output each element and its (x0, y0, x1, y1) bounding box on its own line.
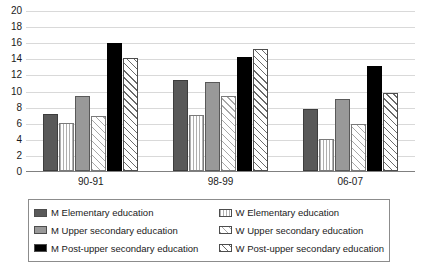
y-axis-tick-label: 6 (0, 119, 22, 129)
legend-swatch-icon (219, 226, 232, 234)
legend-item: M Post-upper secondary education (34, 243, 219, 254)
y-axis-tick-label: 4 (0, 135, 22, 145)
bar (335, 99, 350, 171)
y-axis-tick-label: 20 (0, 6, 22, 16)
x-axis-tick-label: 90-91 (26, 176, 156, 187)
legend-swatch-icon (34, 209, 47, 217)
legend-item-label: W Post-upper secondary education (236, 243, 384, 254)
y-axis-tick-label: 16 (0, 38, 22, 48)
legend-item-label: M Upper secondary education (51, 225, 178, 236)
bar (107, 43, 122, 171)
legend-swatch-icon (34, 226, 47, 234)
legend-swatch-icon (219, 244, 232, 252)
grouped-bar-chart: 02468101214161820 90-9198-9906-07 (0, 0, 421, 196)
legend-item: M Elementary education (34, 207, 219, 218)
y-axis-tick-label: 14 (0, 54, 22, 64)
bar (319, 139, 334, 171)
bar-group (285, 11, 415, 171)
legend-item: W Post-upper secondary education (219, 243, 384, 254)
bar-group (26, 11, 156, 171)
x-axis-tick-label: 98-99 (156, 176, 286, 187)
y-axis-tick-label: 0 (0, 167, 22, 177)
bar (383, 93, 398, 171)
legend-item: M Upper secondary education (34, 225, 219, 236)
legend-item: W Elementary education (219, 207, 384, 218)
legend-column-men: M Elementary educationM Upper secondary … (34, 204, 219, 257)
x-axis-line (26, 171, 415, 172)
legend-column-women: W Elementary educationW Upper secondary … (219, 204, 384, 257)
legend-swatch-icon (34, 244, 47, 252)
legend-item-label: M Elementary education (51, 207, 153, 218)
bar (91, 116, 106, 171)
x-axis-tick-labels: 90-9198-9906-07 (26, 176, 415, 187)
y-axis-tick-label: 18 (0, 22, 22, 32)
bar (221, 96, 236, 171)
bars-layer (26, 11, 415, 171)
legend-item-label: M Post-upper secondary education (51, 243, 198, 254)
y-axis-tick-label: 2 (0, 151, 22, 161)
bar (43, 114, 58, 171)
legend-item-label: W Elementary education (236, 207, 340, 218)
bar (303, 109, 318, 171)
bar (189, 115, 204, 171)
bar-group (156, 11, 286, 171)
x-axis-tick-label: 06-07 (285, 176, 415, 187)
bar (351, 124, 366, 171)
bar (59, 123, 74, 171)
y-axis-tick-label: 12 (0, 70, 22, 80)
y-axis: 02468101214161820 (0, 0, 22, 196)
bar (173, 80, 188, 171)
bar (75, 96, 90, 171)
plot-area (26, 11, 415, 172)
legend-swatch-icon (219, 209, 232, 217)
legend-item: W Upper secondary education (219, 225, 384, 236)
y-axis-tick-label: 8 (0, 103, 22, 113)
bar (205, 82, 220, 171)
bar (253, 49, 268, 171)
legend-item-label: W Upper secondary education (236, 225, 364, 236)
bar (237, 57, 252, 171)
y-axis-tick-label: 10 (0, 87, 22, 97)
bar (367, 66, 382, 171)
bar (123, 58, 138, 171)
chart-legend: M Elementary educationM Upper secondary … (28, 199, 390, 262)
